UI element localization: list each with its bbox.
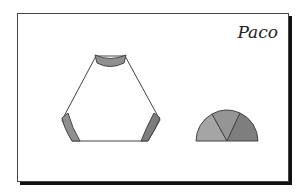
semicircle-shape: [196, 110, 258, 141]
figure-drawing: [0, 0, 302, 193]
hexagon-shape: [62, 55, 160, 141]
